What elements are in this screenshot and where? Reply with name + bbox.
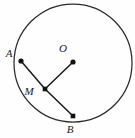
point-o-dot	[70, 59, 75, 64]
point-label-b: B	[67, 123, 74, 135]
segment-m-b	[45, 89, 73, 116]
geometry-figure: A O M B	[0, 0, 135, 138]
point-label-a: A	[5, 47, 13, 59]
segment-o-m	[45, 62, 73, 89]
point-label-m: M	[23, 85, 34, 97]
point-m-dot	[43, 87, 48, 92]
point-b-dot	[71, 114, 76, 119]
point-label-o: O	[59, 42, 67, 54]
point-a-dot	[18, 58, 23, 63]
geometry-canvas: A O M B	[0, 0, 135, 138]
